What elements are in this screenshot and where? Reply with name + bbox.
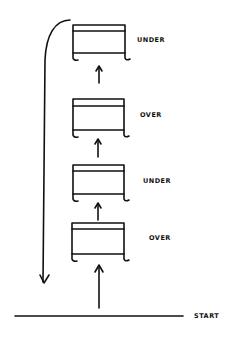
arrow-up — [95, 139, 101, 157]
box-4 — [72, 223, 129, 261]
box-1-label: UNDER — [137, 36, 165, 44]
arrow-up-from-start — [95, 265, 103, 308]
start-label: START — [194, 312, 219, 320]
arrow-up — [95, 203, 101, 220]
diagram-canvas: UNDER OVER UNDER OVER START — [0, 0, 238, 338]
box-3 — [73, 165, 129, 201]
arrow-up — [96, 66, 102, 83]
box-2-label: OVER — [140, 111, 162, 119]
box-1 — [73, 25, 130, 60]
box-3-label: UNDER — [143, 177, 171, 185]
return-loop-arrowhead — [40, 275, 49, 283]
box-2 — [73, 99, 129, 137]
box-4-label: OVER — [149, 234, 171, 242]
return-loop-line — [43, 20, 70, 282]
